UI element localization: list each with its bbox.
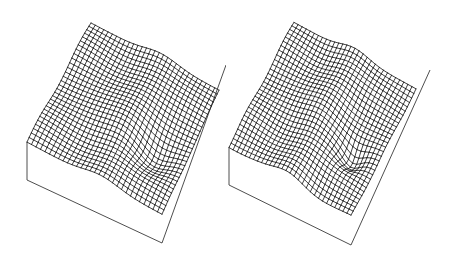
mesh-line-u (368, 99, 372, 102)
mesh-line-v (290, 26, 292, 30)
mesh-line-v (286, 103, 288, 107)
mesh-line-v (280, 152, 282, 156)
mesh-line-v (295, 142, 297, 146)
mesh-line-u (311, 87, 315, 88)
mesh-line-v (283, 139, 285, 143)
mesh-line-u (342, 84, 346, 87)
mesh-line-u (275, 60, 279, 62)
mesh-line-v (341, 190, 343, 195)
mesh-line-u (354, 70, 358, 73)
mesh-line-v (292, 165, 294, 169)
mesh-line-v (399, 119, 401, 123)
mesh-line-v (321, 189, 323, 194)
mesh-line-u (336, 142, 340, 148)
mesh-line-v (270, 133, 272, 137)
mesh-line-u (362, 175, 366, 177)
mesh-line-v (325, 167, 327, 172)
mesh-line-v (332, 71, 334, 75)
mesh-line-u (359, 51, 363, 54)
mesh-line-v (249, 103, 251, 107)
mesh-line-v (379, 145, 381, 149)
mesh-line-u (378, 133, 382, 135)
mesh-line-v (318, 42, 320, 46)
mesh-line-v (398, 80, 400, 84)
mesh-line-u (270, 138, 274, 140)
mesh-line-v (294, 86, 296, 90)
mesh-line-u (351, 57, 355, 59)
mesh-line-v (327, 79, 329, 83)
mesh-line-v (362, 96, 364, 101)
mesh-line-u (395, 88, 399, 91)
mesh-line-v (295, 123, 297, 128)
mesh-line-u (246, 111, 250, 113)
mesh-line-u (365, 171, 369, 173)
mesh-line-v (329, 194, 331, 199)
mesh-line-u (262, 132, 266, 135)
mesh-line-u (350, 79, 354, 82)
mesh-line-v (336, 82, 338, 86)
mesh-line-u (369, 152, 373, 153)
mesh-line-u (310, 105, 314, 106)
mesh-line-v (375, 81, 377, 85)
mesh-line-u (356, 197, 360, 199)
mesh-line-v (360, 76, 362, 80)
mesh-line-u (300, 108, 304, 109)
mesh-line-u (378, 111, 382, 113)
mesh-line-u (278, 104, 282, 106)
mesh-line-v (250, 120, 252, 124)
mesh-line-u (333, 178, 337, 181)
mesh-line-v (375, 144, 377, 149)
mesh-line-u (405, 100, 409, 103)
mesh-line-v (319, 85, 321, 89)
mesh-line-v (276, 62, 278, 67)
mesh-line-v (304, 175, 306, 179)
mesh-line-u (332, 149, 336, 154)
mesh-line-u (345, 50, 349, 51)
mesh-line-u (344, 179, 348, 182)
mesh-line-v (333, 185, 335, 190)
mesh-line-v (310, 132, 312, 136)
mesh-line-u (371, 82, 375, 85)
mesh-line-u (315, 71, 319, 72)
mesh-line-v (238, 124, 240, 129)
mesh-line-v (397, 123, 399, 127)
mesh-line-v (292, 101, 294, 105)
mesh-line-v (313, 146, 315, 150)
mesh-line-u (323, 81, 327, 82)
mesh-line-u (298, 92, 302, 93)
mesh-line-u (317, 92, 321, 93)
mesh-line-u (348, 169, 352, 171)
mesh-line-u (283, 112, 287, 114)
mesh-line-u (351, 153, 355, 156)
mesh-line-u (304, 99, 308, 100)
mesh-line-u (284, 165, 288, 167)
mesh-line-u (322, 145, 326, 148)
mesh-line-v (316, 108, 318, 112)
mesh-line-u (298, 44, 302, 47)
mesh-line-v (343, 112, 345, 116)
mesh-line-v (272, 149, 274, 153)
mesh-line-v (369, 61, 371, 65)
mesh-line-u (300, 118, 304, 119)
mesh-line-v (356, 193, 358, 197)
mesh-line-u (257, 112, 261, 115)
mesh-line-v (315, 142, 317, 146)
mesh-line-v (334, 76, 336, 80)
mesh-line-u (383, 70, 387, 73)
mesh-line-u (288, 93, 292, 95)
mesh-line-u (325, 78, 329, 79)
mesh-line-v (309, 87, 311, 91)
mesh-line-u (376, 138, 380, 140)
mesh-line-v (270, 161, 272, 165)
mesh-line-v (341, 44, 343, 49)
mesh-line-v (371, 68, 373, 72)
mesh-line-u (303, 65, 307, 67)
mesh-line-v (272, 71, 274, 75)
mesh-line-u (315, 79, 319, 80)
mesh-line-v (325, 179, 327, 184)
mesh-line-v (275, 125, 277, 129)
mesh-line-v (366, 111, 368, 116)
mesh-line-u (287, 135, 291, 136)
mesh-line-u (348, 173, 352, 175)
mesh-line-v (410, 98, 412, 103)
